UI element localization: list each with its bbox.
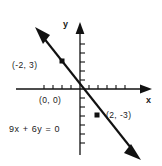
coordinate-plane-svg (0, 0, 162, 166)
y-axis-arrowhead (76, 22, 85, 34)
y-axis-ticks-positive (80, 44, 85, 80)
line-arrowhead-lower-right (124, 144, 141, 160)
x-axis-label: x (146, 96, 151, 105)
equation-label: 9x + 6y = 0 (9, 125, 60, 134)
point-marker-neg2-3 (60, 59, 65, 64)
point-marker-2-neg3 (95, 113, 100, 118)
point-label-lower-right: (2, -3) (106, 111, 131, 120)
y-axis-ticks-negative (80, 98, 85, 143)
x-axis-arrowhead (140, 85, 152, 94)
graph-figure: y x (-2, 3) (0, 0) (2, -3) 9x + 6y = 0 (0, 0, 162, 166)
y-axis-label: y (63, 20, 68, 29)
point-label-origin: (0, 0) (39, 96, 61, 105)
point-label-upper-left: (-2, 3) (12, 61, 37, 70)
